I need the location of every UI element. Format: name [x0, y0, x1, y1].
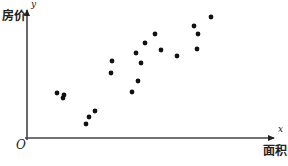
data-point [134, 51, 139, 56]
data-point [130, 90, 135, 95]
data-points [55, 15, 214, 127]
data-point [196, 32, 201, 37]
data-point [109, 71, 114, 76]
y-variable-label: y [31, 0, 36, 9]
data-point [192, 24, 197, 29]
x-variable-label: x [278, 124, 283, 134]
origin-label: O [16, 138, 26, 152]
data-point [159, 48, 164, 53]
data-point [139, 61, 144, 66]
y-axis-label: 房价 [2, 6, 26, 23]
scatter-chart [0, 0, 288, 166]
data-point [175, 54, 180, 59]
data-point [153, 32, 158, 37]
data-point [61, 96, 66, 101]
data-point [55, 91, 60, 96]
data-point [136, 79, 141, 84]
data-point [209, 15, 214, 20]
data-point [110, 59, 115, 64]
data-point [87, 115, 92, 120]
x-axis-label: 面积 [263, 141, 287, 158]
data-point [143, 41, 148, 46]
data-point [84, 122, 89, 127]
data-point [93, 109, 98, 114]
data-point [195, 47, 200, 52]
